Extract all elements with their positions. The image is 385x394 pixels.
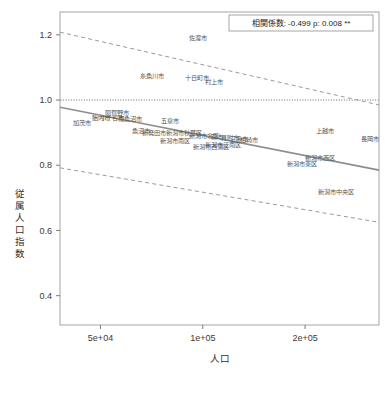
scatter-plot: 0.40.60.81.01.25e+041e+052e+05人口佐渡市糸魚川市十… bbox=[0, 0, 385, 394]
y-tick-label: 1.2 bbox=[39, 30, 52, 40]
y-tick-label: 0.4 bbox=[39, 291, 52, 301]
data-point-label: 村上市 bbox=[205, 78, 223, 86]
data-point-label: 新潟市南区 bbox=[160, 137, 190, 145]
data-point-label: 長岡市 bbox=[361, 135, 379, 143]
confidence-band-upper bbox=[60, 32, 379, 105]
y-axis-title-char: 従 bbox=[13, 188, 27, 200]
y-axis-title-char: 数 bbox=[13, 248, 27, 260]
data-point-label: 佐渡市 bbox=[189, 34, 207, 42]
data-point-label: 糸魚川市 bbox=[140, 72, 164, 80]
y-tick-label: 0.6 bbox=[39, 226, 52, 236]
data-point-label: 上越市 bbox=[316, 127, 334, 135]
x-tick-label: 5e+04 bbox=[88, 333, 113, 343]
x-tick-label: 2e+05 bbox=[292, 333, 317, 343]
y-axis-title-char: 指 bbox=[13, 236, 27, 248]
x-axis-title: 人口 bbox=[210, 353, 230, 364]
data-point-label: 新潟市中央区 bbox=[318, 188, 354, 196]
y-axis-title-char: 属 bbox=[13, 200, 27, 212]
y-axis-title-char: 口 bbox=[13, 224, 27, 236]
confidence-band-lower bbox=[60, 168, 379, 222]
correlation-text: 相関係数: -0.499 p: 0.008 ** bbox=[252, 18, 351, 28]
plot-panel-border bbox=[60, 12, 379, 325]
data-point-label: 加茂市 bbox=[73, 119, 91, 127]
y-axis-title: 従属人口指数 bbox=[13, 188, 27, 260]
y-axis-title-char: 人 bbox=[13, 212, 27, 224]
chart-container: 0.40.60.81.01.25e+041e+052e+05人口佐渡市糸魚川市十… bbox=[0, 0, 385, 394]
data-point-label: 南魚沼市 bbox=[118, 115, 142, 123]
data-point-label: 新潟市西蒲区 bbox=[193, 143, 229, 151]
data-point-label: 新潟市東区 bbox=[287, 160, 317, 168]
data-point-label: 新発田市 bbox=[142, 129, 166, 137]
data-point-label: 柏崎市 bbox=[240, 136, 258, 144]
x-tick-label: 1e+05 bbox=[190, 333, 215, 343]
y-tick-label: 1.0 bbox=[39, 95, 52, 105]
data-point-label: 五泉市 bbox=[161, 117, 179, 125]
y-tick-label: 0.8 bbox=[39, 160, 52, 170]
